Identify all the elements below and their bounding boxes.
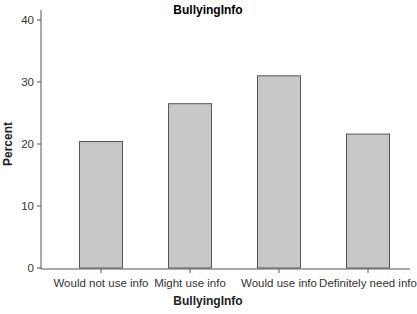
x-tick-label: Would not use info	[53, 277, 148, 289]
y-tick-label: 20	[21, 138, 34, 150]
y-axis: 010203040	[21, 10, 41, 274]
x-tick-label: Might use info	[154, 277, 226, 289]
x-tick-label: Would use info	[241, 277, 317, 289]
y-tick-label: 30	[21, 76, 34, 88]
bars	[80, 76, 390, 268]
bar	[80, 142, 123, 268]
x-axis: Would not use infoMight use infoWould us…	[41, 269, 417, 289]
chart-title: BullyingInfo	[173, 3, 242, 17]
y-axis-label: Percent	[1, 122, 15, 166]
bar	[258, 76, 301, 268]
bar-chart: BullyingInfo 010203040 Would not use inf…	[0, 0, 417, 314]
y-tick-label: 10	[21, 200, 34, 212]
y-tick-label: 40	[21, 14, 34, 26]
x-axis-label: BullyingInfo	[173, 294, 242, 308]
bar	[347, 134, 390, 268]
bar	[169, 104, 212, 268]
x-tick-label: Definitely need info	[319, 277, 417, 289]
y-tick-label: 0	[28, 262, 34, 274]
